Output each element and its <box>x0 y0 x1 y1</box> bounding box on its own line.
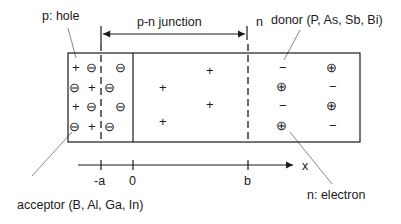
acceptor-ion: ⊖ <box>115 99 126 114</box>
acceptor-label: acceptor (B, Al, Ga, In) <box>17 198 143 212</box>
n-electron-label: n: electron <box>307 188 365 202</box>
donor-label: donor (P, As, Sb, Bi) <box>271 13 383 27</box>
donor-leader-line <box>284 30 300 60</box>
pn-junction-label: p-n junction <box>137 15 202 29</box>
donor-ion: ⊕ <box>276 79 287 94</box>
acceptor-ion: ⊖ <box>69 80 80 95</box>
electron-minus: − <box>329 79 337 94</box>
acceptor-leader-line <box>32 132 72 176</box>
n-region-charges: − ⊕ ⊕ − − ⊕ ⊕ − <box>276 60 337 133</box>
acceptor-ion: ⊖ <box>86 60 97 75</box>
donor-ion: ⊕ <box>276 118 287 133</box>
acceptor-ion: ⊖ <box>115 60 126 75</box>
hole-plus: + <box>72 99 80 114</box>
hole-plus: + <box>88 80 96 95</box>
hole-plus: + <box>72 60 80 75</box>
pn-junction-diagram: p: hole p-n junction n donor (P, As, Sb,… <box>0 0 401 224</box>
donor-plus: + <box>159 80 167 95</box>
electron-minus: − <box>279 60 287 75</box>
acceptor-ion: ⊖ <box>86 99 97 114</box>
x-axis: x -a 0 b <box>78 159 309 188</box>
tick-label-neg-a: -a <box>94 174 105 188</box>
donor-plus: + <box>206 63 214 78</box>
p-hole-label: p: hole <box>42 9 80 23</box>
donor-ion: ⊕ <box>326 60 337 75</box>
acceptor-ion: ⊖ <box>104 119 115 134</box>
acceptor-ion: ⊖ <box>104 80 115 95</box>
n-region-label: n <box>256 15 263 29</box>
p-region-charges: + ⊖ ⊖ ⊖ + ⊖ + ⊖ ⊖ ⊖ + ⊖ <box>69 60 126 134</box>
x-axis-label: x <box>302 159 309 173</box>
electron-minus: − <box>279 98 287 113</box>
hole-plus: + <box>88 119 96 134</box>
donor-plus: + <box>159 114 167 129</box>
tick-label-zero: 0 <box>129 174 136 188</box>
acceptor-ion: ⊖ <box>69 119 80 134</box>
electron-minus: − <box>329 118 337 133</box>
tick-label-b: b <box>244 174 251 188</box>
electron-leader-line <box>290 132 332 184</box>
donor-ion: ⊕ <box>326 98 337 113</box>
depletion-n-charges: + + + + <box>159 63 214 129</box>
donor-plus: + <box>206 97 214 112</box>
